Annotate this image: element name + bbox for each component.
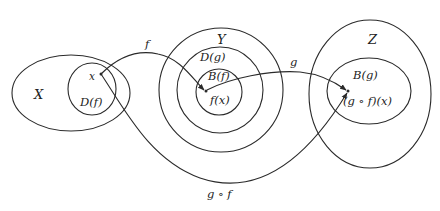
point-x-label: x <box>89 70 95 82</box>
arrow-g-compose-f-label: g ∘ f <box>207 187 233 201</box>
range-f-label: B(f) <box>207 69 230 83</box>
diagram-svg: X x D(f) f Y D(g) B(f) f(x) g Z B(g) (g … <box>0 0 440 211</box>
composition-diagram: X x D(f) f Y D(g) B(f) f(x) g Z B(g) (g … <box>0 0 440 211</box>
domain-g-label: D(g) <box>199 50 226 64</box>
range-g-label: B(g) <box>352 68 378 82</box>
point-fx-label: f(x) <box>209 93 230 107</box>
set-x-ellipse <box>12 55 130 131</box>
domain-f-label: D(f) <box>79 95 102 109</box>
set-z-label: Z <box>367 32 378 47</box>
arrow-f-label: f <box>144 37 151 51</box>
set-x-label: X <box>33 87 44 102</box>
point-gfx-label: (g ∘ f)(x) <box>343 94 392 108</box>
arrow-g-label: g <box>290 55 297 69</box>
arrow-g-compose-f <box>101 74 347 183</box>
arrow-f <box>101 53 204 90</box>
point-gfx <box>347 90 350 93</box>
set-y-label: Y <box>217 32 227 47</box>
